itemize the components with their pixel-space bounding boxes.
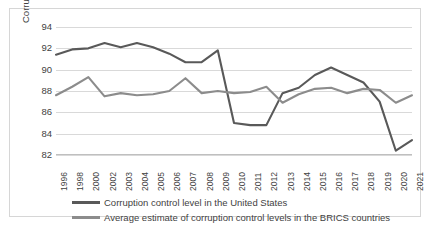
x-tick-label: 2013 [287, 172, 296, 191]
x-tick-label: 1998 [76, 172, 85, 191]
chart-legend: Corruption control level in the United S… [72, 195, 422, 225]
x-tick-label: 2014 [303, 172, 312, 191]
x-tick-label: 2018 [367, 172, 376, 191]
legend-item[interactable]: Corruption control level in the United S… [72, 195, 422, 210]
legend-item[interactable]: Average estimate of corruption control l… [72, 210, 422, 225]
y-tick-label: 94 [41, 22, 52, 32]
x-tick-label: 2000 [92, 172, 101, 191]
legend-label: Corruption control level in the United S… [104, 197, 287, 208]
chart-card: Corruption control level 82848688909294 … [9, 8, 421, 217]
y-tick-label: 84 [41, 129, 52, 139]
x-tick-label: 2012 [270, 172, 279, 191]
x-tick-label: 2004 [141, 172, 150, 191]
x-tick-label: 2006 [173, 172, 182, 191]
x-tick-label: 2019 [384, 172, 393, 191]
legend-swatch-icon [72, 216, 100, 219]
y-tick-label: 88 [41, 86, 52, 96]
gridline [56, 155, 412, 156]
x-tick-label: 2010 [238, 172, 247, 191]
x-tick-label: 2009 [222, 172, 231, 191]
line-series-svg [56, 27, 412, 155]
x-tick-label: 2005 [157, 172, 166, 191]
y-tick-label: 90 [41, 65, 52, 75]
legend-label: Average estimate of corruption control l… [104, 212, 390, 223]
x-tick-label: 2017 [351, 172, 360, 191]
x-tick-label: 1996 [60, 172, 69, 191]
x-tick-label: 2015 [319, 172, 328, 191]
y-tick-label: 92 [41, 44, 52, 54]
y-tick-label: 86 [41, 108, 52, 118]
x-tick-label: 2021 [416, 172, 425, 191]
x-tick-label: 2020 [400, 172, 409, 191]
x-tick-label: 2002 [109, 172, 118, 191]
x-tick-label: 2016 [335, 172, 344, 191]
x-tick-label: 2007 [189, 172, 198, 191]
series-plot-area [56, 27, 412, 155]
x-tick-label: 2003 [125, 172, 134, 191]
x-tick-label: 2008 [206, 172, 215, 191]
x-tick-labels: 1996199820002002200320042005200620072008… [56, 159, 412, 195]
x-tick-label: 2011 [254, 173, 263, 191]
x-axis-line [56, 154, 412, 155]
y-tick-label: 82 [41, 150, 52, 160]
legend-swatch-icon [72, 201, 100, 204]
series-line-1 [56, 43, 412, 151]
plot-region: Corruption control level 82848688909294 [56, 27, 412, 155]
y-axis-title: Corruption control level [20, 0, 34, 23]
